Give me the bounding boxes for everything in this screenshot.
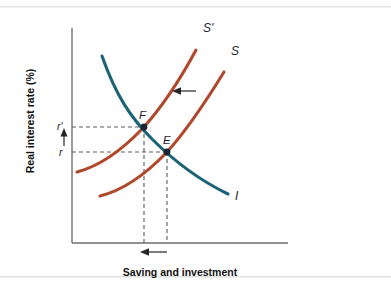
x-axis-label: Saving and investment [123, 266, 237, 278]
rate-label-r-prime: r' [57, 121, 63, 132]
quantity-fall-arrow [140, 248, 167, 255]
curve-s [100, 72, 224, 196]
rate-label-r: r [59, 147, 63, 158]
curve-label-s: S [231, 45, 239, 57]
point-e-marker [164, 149, 171, 156]
supply-shift-arrow [172, 87, 196, 94]
figure-page: S' S I F E r' r Real interest rate (%) S… [0, 0, 391, 292]
point-label-e: E [163, 135, 171, 147]
point-label-f: F [139, 110, 146, 122]
curve-s-prime [77, 50, 196, 172]
curve-i [102, 56, 228, 194]
point-f-marker [141, 124, 148, 131]
y-axis-label-wrap: Real interest rate (%) [20, 61, 38, 181]
curve-label-i: I [235, 190, 238, 202]
y-axis-label: Real interest rate (%) [24, 69, 36, 173]
x-axis-label-wrap: Saving and investment [72, 262, 288, 280]
curve-label-s-prime: S' [203, 22, 213, 34]
